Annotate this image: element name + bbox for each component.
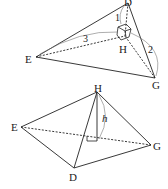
arc-length-1 [120,6,124,24]
height-label-h: h [102,112,108,124]
arc-length-2 [131,33,158,76]
edge-DG [128,3,155,78]
figure-2-tetrahedron [21,92,151,168]
edge-DG [74,145,151,168]
label-D-fig2: D [69,171,77,183]
edge-label-3: 3 [83,33,88,44]
label-E-fig1: E [25,53,32,65]
edge-label-1: 1 [115,12,120,23]
edge-HD [74,92,97,168]
figure-1-tetrahedron [36,3,158,78]
label-G-fig1: G [152,79,160,91]
edge-EH-dashed [36,36,125,57]
edge-GH-dashed [125,36,155,78]
geometry-figures: D E G H 1 3 2 H E G D h [0,0,168,189]
label-H-fig1: H [119,43,127,55]
edge-ED [21,127,74,168]
edge-EG [36,57,155,78]
right-angle-cube-mark [117,24,131,40]
label-D-fig1: D [124,0,132,8]
label-E-fig2: E [11,121,18,133]
edge-HE [21,92,97,127]
arc-length-3 [40,32,118,54]
label-H-fig2: H [94,82,102,94]
edge-label-2: 2 [148,44,153,55]
label-G-fig2: G [153,140,161,152]
